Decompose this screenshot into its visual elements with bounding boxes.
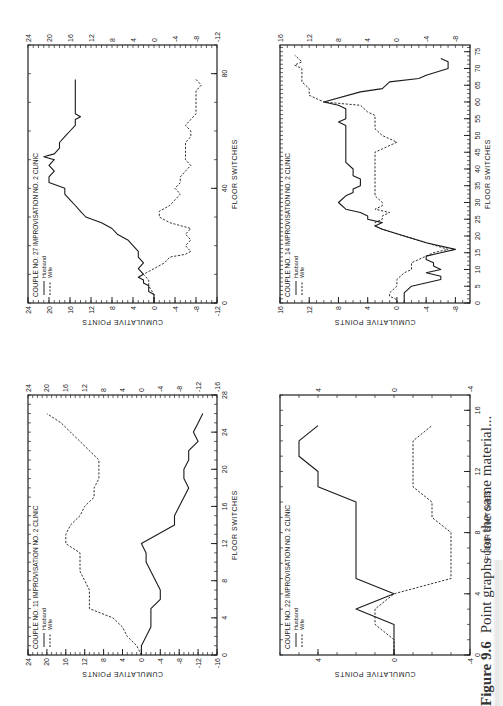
y-tick-label: -4 <box>423 306 430 312</box>
y-tick-label-right: 4 <box>315 388 322 392</box>
chart-svg: 04080-12-12-8-8-4-4004488121216162020242… <box>0 0 258 353</box>
figure-caption-text: Point graphs for the same material... <box>478 416 494 633</box>
x-tick-label: 0 <box>474 301 481 305</box>
y-tick-label-right: -8 <box>193 36 200 42</box>
chart-couple-27: 04080-12-12-8-8-4-4004488121216162020242… <box>0 0 258 353</box>
y-tick-label: 0 <box>138 658 145 662</box>
plot-frame <box>280 395 470 655</box>
chart-couple-22: 0481216-4-40044FLOOR SWITCHESCUMULATIVE … <box>252 353 503 706</box>
chart-title: COUPLE NO. 14 IMPROVISATION NO. 2 CLINIC <box>284 153 291 297</box>
series-wife <box>295 55 449 303</box>
y-tick-label-right: -4 <box>467 386 474 392</box>
x-tick-label: 60 <box>474 98 481 106</box>
chart-svg: 051015202530354045505560657075-8-8-4-400… <box>252 0 503 353</box>
x-tick-label: 75 <box>474 48 481 56</box>
figure-caption: Figure 9.6Point graphs for the same mate… <box>478 416 495 706</box>
x-tick-label: 50 <box>474 131 481 139</box>
y-tick-label: -4 <box>172 306 179 312</box>
x-tick-label: 80 <box>221 70 228 78</box>
y-tick-label-right: 16 <box>277 34 284 42</box>
y-tick-label-right: 4 <box>364 38 371 42</box>
y-tick-label: 20 <box>43 658 50 666</box>
x-tick-label: 40 <box>474 165 481 173</box>
y-tick-label: 0 <box>391 658 398 662</box>
chart-couple-11: 0481216202428-16-16-12-12-8-8-4-40044881… <box>0 353 258 706</box>
y-tick-label-right: 12 <box>306 34 313 42</box>
x-tick-label: 10 <box>474 265 481 273</box>
y-tick-label: 4 <box>364 306 371 310</box>
y-tick-label: -4 <box>157 658 164 664</box>
legend-label-wife: Wife <box>299 619 305 630</box>
chart-svg: 0481216-4-40044FLOOR SWITCHESCUMULATIVE … <box>252 353 503 706</box>
y-axis-title: CUMULATIVE POINTS <box>334 319 415 326</box>
y-tick-label: 16 <box>62 658 69 666</box>
x-tick-label: 12 <box>221 540 228 548</box>
series-wife <box>144 79 202 303</box>
y-tick-label: 0 <box>393 306 400 310</box>
chart-title: COUPLE NO. 22 IMPROVISATION NO. 2 CLINIC <box>284 505 291 649</box>
y-tick-label: 12 <box>81 658 88 666</box>
x-tick-label: 0 <box>221 653 228 657</box>
y-tick-label-right: -12 <box>214 32 221 42</box>
y-tick-label-right: 20 <box>46 34 53 42</box>
chart-svg: 0481216202428-16-16-12-12-8-8-4-40044881… <box>0 353 258 706</box>
y-tick-label-right: 24 <box>25 384 32 392</box>
x-tick-label: 4 <box>221 616 228 620</box>
y-tick-label-right: 0 <box>393 38 400 42</box>
y-tick-label-right: 8 <box>109 38 116 42</box>
y-tick-label: 12 <box>88 306 95 314</box>
y-tick-label-right: 0 <box>138 388 145 392</box>
y-tick-label: 8 <box>335 306 342 310</box>
x-tick-label: 55 <box>474 115 481 123</box>
y-axis-title: CUMULATIVE POINTS <box>334 671 415 678</box>
y-tick-label-right: 16 <box>62 384 69 392</box>
y-tick-label-right: -12 <box>195 382 202 392</box>
y-tick-label-right: 20 <box>43 384 50 392</box>
y-tick-label: 16 <box>67 306 74 314</box>
x-axis-title: FLOOR SWITCHES <box>231 139 238 209</box>
y-tick-label: -8 <box>176 658 183 664</box>
y-tick-label-right: 0 <box>391 388 398 392</box>
series-wife <box>375 426 451 655</box>
x-tick-label: 5 <box>474 284 481 288</box>
chart-title: COUPLE NO. 27 IMPROVISATION NO. 2 CLINIC <box>32 153 39 297</box>
x-tick-label: 16 <box>221 502 228 510</box>
y-tick-label: 12 <box>306 306 313 314</box>
y-tick-label-right: 4 <box>130 38 137 42</box>
chart-title: COUPLE NO. 11 IMPROVISATION NO. 2 CLINIC <box>32 505 39 649</box>
y-tick-label: 8 <box>109 306 116 310</box>
y-tick-label-right: 16 <box>67 34 74 42</box>
x-tick-label: 40 <box>221 184 228 192</box>
series-husband <box>44 79 154 303</box>
y-tick-label-right: 12 <box>88 34 95 42</box>
plot-frame <box>28 395 217 655</box>
y-tick-label: 20 <box>46 306 53 314</box>
series-wife <box>47 414 141 655</box>
x-tick-label: 15 <box>474 249 481 257</box>
y-tick-label-right: -8 <box>176 386 183 392</box>
x-axis-title: FLOOR SWITCHES <box>484 139 491 209</box>
y-tick-label-right: 4 <box>119 388 126 392</box>
x-tick-label: 16 <box>474 406 481 414</box>
y-axis-title: CUMULATIVE POINTS <box>82 671 163 678</box>
x-tick-label: 0 <box>221 301 228 305</box>
plot-frame <box>28 45 217 303</box>
y-tick-label-right: -4 <box>157 386 164 392</box>
x-tick-label: 45 <box>474 148 481 156</box>
series-husband <box>324 58 456 303</box>
x-tick-label: 70 <box>474 64 481 72</box>
x-axis-title: FLOOR SWITCHES <box>231 490 238 560</box>
x-tick-label: 65 <box>474 81 481 89</box>
y-tick-label-right: -4 <box>172 36 179 42</box>
y-tick-label-right: 24 <box>25 34 32 42</box>
y-tick-label-right: -16 <box>214 382 221 392</box>
y-axis-title: CUMULATIVE POINTS <box>82 319 163 326</box>
y-tick-label: -4 <box>467 658 474 664</box>
y-tick-label: 4 <box>119 658 126 662</box>
x-tick-label: 20 <box>221 465 228 473</box>
y-tick-label-right: -4 <box>423 36 430 42</box>
x-tick-label: 8 <box>221 579 228 583</box>
x-tick-label: 20 <box>474 232 481 240</box>
x-tick-label: 30 <box>474 198 481 206</box>
chart-couple-14: 051015202530354045505560657075-8-8-4-400… <box>252 0 503 353</box>
